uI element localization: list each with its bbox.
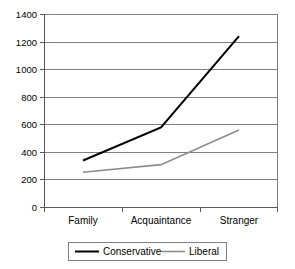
line-chart: 1400 1200 1000 800 600 400 200 0 Family … [0,0,295,269]
x-axis-category-labels: Family Acquaintance Stranger [68,215,259,226]
plot-area-background [44,14,278,207]
y-tick-label-600: 600 [21,119,37,130]
legend-label-conservative: Conservative [103,246,162,257]
chart-canvas: 1400 1200 1000 800 600 400 200 0 Family … [0,0,295,269]
y-tick-label-800: 800 [21,92,37,103]
y-axis-ticks [40,15,44,208]
x-category-label-acquaintance: Acquaintance [131,215,192,226]
y-tick-label-200: 200 [21,174,37,185]
x-category-label-family: Family [68,215,97,226]
y-tick-label-1000: 1000 [16,64,37,75]
y-tick-label-1200: 1200 [16,37,37,48]
x-category-label-stranger: Stranger [220,215,259,226]
chart-legend: Conservative Liberal [69,243,227,261]
y-tick-label-0: 0 [32,202,37,213]
y-tick-label-1400: 1400 [16,9,37,20]
legend-label-liberal: Liberal [189,246,219,257]
y-axis-tick-labels: 1400 1200 1000 800 600 400 200 0 [16,9,37,213]
y-tick-label-400: 400 [21,147,37,158]
